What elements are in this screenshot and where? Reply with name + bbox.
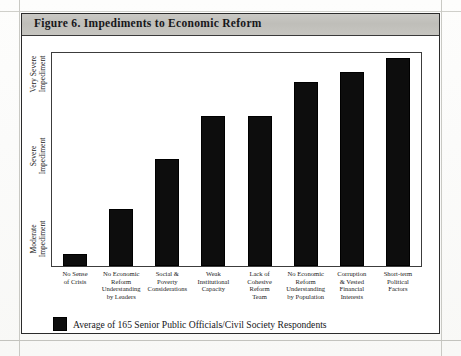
scanned-page: Figure 6. Impediments to Economic Reform… (0, 0, 461, 356)
x-axis-label-3: Social & Poverty Considerations (141, 270, 193, 293)
bar-1 (63, 254, 87, 266)
page-edge-left (19, 0, 20, 356)
x-axis-tick-labels: No Sense of CrisisNo Economic Reform Und… (52, 270, 421, 312)
bar-series (52, 53, 421, 266)
page-edge-bottom (0, 340, 461, 341)
bar-7 (340, 72, 364, 266)
bar-4 (201, 116, 225, 266)
bar-6 (294, 82, 318, 266)
bar-8 (386, 58, 410, 266)
y-axis-label-3: Very Severe Impediment (29, 14, 47, 134)
bar-5 (248, 116, 272, 266)
x-axis-label-2: No Economic Reform Understanding by Lead… (95, 270, 147, 300)
bar-2 (109, 209, 133, 266)
figure-container: Figure 6. Impediments to Economic Reform… (21, 13, 440, 334)
chart-area: Moderate ImpedimentSevere ImpedimentVery… (22, 36, 441, 335)
figure-title-banner: Figure 6. Impediments to Economic Reform (22, 14, 439, 36)
x-axis-label-1: No Sense of Crisis (49, 270, 101, 285)
x-axis-label-4: Weak Institutional Capacity (187, 270, 239, 293)
chart-legend: Average of 165 Senior Public Officials/C… (53, 317, 327, 331)
figure-title: Figure 6. Impediments to Economic Reform (34, 17, 262, 29)
legend-label: Average of 165 Senior Public Officials/C… (73, 319, 327, 330)
x-axis-label-8: Short-term Political Factors (372, 270, 424, 293)
x-axis-label-6: No Economic Reform Understanding by Popu… (280, 270, 332, 300)
x-axis-label-5: Lack of Cohesive Reform Team (234, 270, 286, 300)
x-axis-label-7: Corruption & Vested Financial Interests (326, 270, 378, 300)
legend-swatch-icon (53, 317, 67, 331)
page-edge-top (0, 11, 461, 12)
page-edge-right (441, 0, 442, 356)
bar-3 (155, 159, 179, 266)
